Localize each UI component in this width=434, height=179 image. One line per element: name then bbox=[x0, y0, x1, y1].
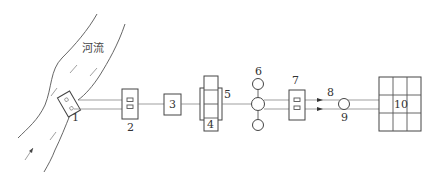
water-supply-diagram: 河流 1 2 3 4 5 6 bbox=[0, 0, 434, 179]
river-hatch bbox=[90, 68, 97, 76]
component-6-tank-top bbox=[253, 79, 264, 90]
component-3-label: 3 bbox=[169, 98, 176, 111]
component-9-label: 9 bbox=[341, 111, 348, 124]
component-1-label: 1 bbox=[72, 111, 79, 124]
river-hatch bbox=[51, 88, 57, 96]
river-flow-arrow-head bbox=[29, 148, 33, 153]
component-8-label: 8 bbox=[327, 86, 334, 99]
river-hatch bbox=[50, 132, 56, 140]
component-5-label: 5 bbox=[224, 88, 231, 101]
component-2-pump-station bbox=[122, 89, 138, 119]
river-hatch bbox=[70, 65, 77, 73]
flow-arrow-upper-icon bbox=[317, 98, 323, 102]
component-7-pump-station bbox=[289, 90, 305, 120]
river-left-bank bbox=[18, 14, 97, 138]
component-4-label: 4 bbox=[207, 118, 214, 131]
component-9-circle bbox=[339, 99, 350, 110]
flow-arrow-lower-icon bbox=[317, 107, 323, 111]
junction-circle bbox=[252, 98, 265, 111]
river-label: 河流 bbox=[82, 41, 104, 55]
component-2-label: 2 bbox=[127, 121, 134, 134]
tank-bottom bbox=[253, 120, 264, 131]
component-7-label: 7 bbox=[292, 74, 299, 87]
component-6-label: 6 bbox=[255, 65, 262, 78]
component-10-label: 10 bbox=[394, 98, 408, 111]
